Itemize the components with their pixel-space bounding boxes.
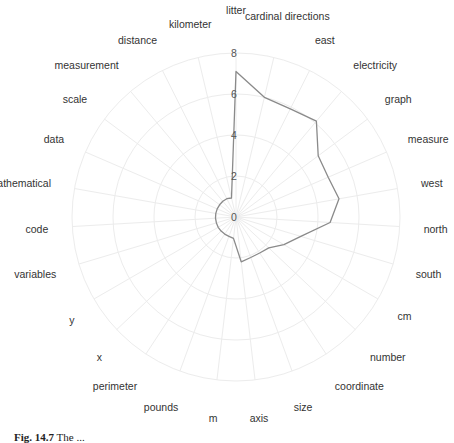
grid-spoke <box>85 152 236 217</box>
category-label: graph <box>385 93 412 105</box>
category-label: south <box>416 268 442 280</box>
category-label: axis <box>250 412 269 424</box>
category-label: variables <box>14 268 56 280</box>
category-label: x <box>97 351 103 363</box>
radial-tick-label: 0 <box>231 211 237 223</box>
grid-spoke <box>79 217 236 264</box>
grid-spoke <box>162 70 236 217</box>
figure-caption-label: Fig. 14.7 <box>14 431 54 443</box>
series-polygon <box>216 72 340 262</box>
category-label: distance <box>118 34 157 46</box>
category-label: y <box>69 314 75 326</box>
category-label: perimeter <box>93 380 138 392</box>
category-label: cardinal directions <box>245 10 330 22</box>
radial-tick-label: 8 <box>231 47 237 59</box>
category-label: measurement <box>54 59 118 71</box>
category-label: number <box>370 351 406 363</box>
category-label: litter <box>226 4 246 16</box>
category-label: pounds <box>144 401 178 413</box>
category-label: kilometer <box>169 18 212 30</box>
category-label: east <box>315 34 335 46</box>
category-label: size <box>294 401 313 413</box>
figure-caption: Fig. 14.7 The ... <box>14 431 85 443</box>
category-label: mathematical <box>0 177 51 189</box>
grid-spoke <box>180 217 236 371</box>
figure-caption-text: The ... <box>57 431 85 443</box>
category-label: north <box>424 223 448 235</box>
category-label: cm <box>398 310 412 322</box>
category-label: measure <box>408 133 449 145</box>
category-label: west <box>420 177 443 189</box>
grid-spoke <box>131 91 236 217</box>
grid-spoke <box>74 189 236 217</box>
category-label: scale <box>63 93 88 105</box>
grid-spoke <box>94 217 236 299</box>
radar-series-area <box>216 72 340 262</box>
category-label: m <box>209 412 218 424</box>
grid-spoke <box>117 217 236 330</box>
radial-tick-label: 4 <box>231 129 237 141</box>
category-label: code <box>26 223 49 235</box>
radial-tick-label: 6 <box>231 88 237 100</box>
category-label: coordinate <box>335 380 384 392</box>
category-label: data <box>44 133 65 145</box>
category-label: electricity <box>353 59 398 71</box>
radial-tick-label: 2 <box>231 170 237 182</box>
